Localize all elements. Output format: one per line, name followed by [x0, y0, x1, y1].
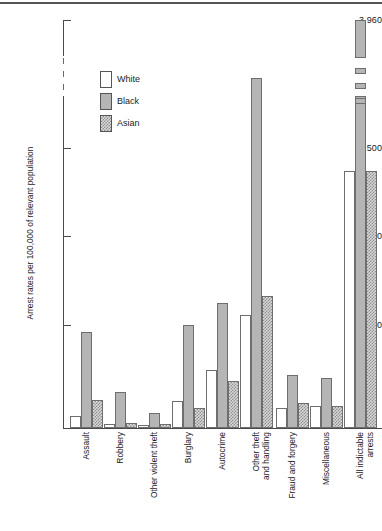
- bar-break-segment: [355, 98, 366, 104]
- plot-area: [64, 20, 382, 429]
- bar-white: [240, 315, 251, 428]
- bar-black: [251, 78, 262, 428]
- x-axis-label: Other theftand handling: [252, 432, 271, 480]
- bar-asian: [126, 423, 137, 428]
- x-axis-label-line: Other violent theft: [150, 432, 160, 498]
- bar-white: [138, 425, 149, 428]
- bar-asian: [228, 381, 239, 428]
- x-axis-baseline: [64, 428, 382, 429]
- bar-black: [217, 303, 228, 428]
- bar-break-segment: [355, 83, 366, 89]
- bar-black: [81, 332, 92, 428]
- x-axis-label: Robbery: [116, 432, 126, 464]
- x-axis-label: Fraud and forgery: [288, 432, 298, 499]
- bar-asian: [262, 296, 273, 428]
- x-axis-label: Miscellaneous: [322, 432, 332, 485]
- bar-top-segment: [355, 20, 366, 58]
- bar-white: [206, 370, 217, 428]
- bar-asian: [92, 400, 103, 428]
- bar-asian: [298, 403, 309, 428]
- x-axis-label-line: Autocrime: [218, 432, 228, 470]
- bar-black: [287, 375, 298, 428]
- bar-white: [310, 406, 321, 428]
- bar-asian: [160, 424, 171, 428]
- bar-black: [115, 392, 126, 428]
- x-axis-label: Assault: [82, 432, 92, 459]
- bar-group: [206, 20, 239, 428]
- x-axis-label-line: Miscellaneous: [322, 432, 332, 485]
- x-axis-label: All indictablearrests: [356, 432, 375, 479]
- bar-group: [276, 20, 309, 428]
- x-axis-label-line: Robbery: [116, 432, 126, 464]
- bar-black: [149, 413, 160, 428]
- bar-white: [276, 408, 287, 428]
- bar-white: [104, 424, 115, 428]
- bar-white: [172, 401, 183, 428]
- bar-asian: [332, 406, 343, 428]
- x-axis-label-line: arrests: [366, 432, 376, 479]
- bar-group: [104, 20, 137, 428]
- x-axis-label-line: and handling: [262, 432, 272, 480]
- bar-white: [344, 171, 355, 429]
- x-axis-labels: AssaultRobberyOther violent theftBurglar…: [64, 432, 382, 531]
- bar-group: [240, 20, 273, 428]
- y-axis-title: Arrest rates per 100,000 of relevant pop…: [25, 123, 35, 343]
- bar-black: [321, 378, 332, 428]
- bar-group: [310, 20, 343, 428]
- x-axis-label: Autocrime: [218, 432, 228, 470]
- x-axis-label-line: Assault: [82, 432, 92, 459]
- bar-asian: [194, 408, 205, 428]
- bar-asian: [366, 171, 377, 429]
- x-axis-label-line: Fraud and forgery: [288, 432, 298, 499]
- bar-group: [344, 20, 377, 428]
- x-axis-label: Other violent theft: [150, 432, 160, 498]
- bar-break-segment: [355, 68, 366, 74]
- bar-group: [138, 20, 171, 428]
- bar-group: [70, 20, 103, 428]
- x-axis-label-line: Burglary: [184, 432, 194, 463]
- bar-black: [355, 96, 366, 428]
- bar-group: [172, 20, 205, 428]
- bar-white: [70, 416, 81, 428]
- bar-black: [183, 325, 194, 428]
- top-rule: [0, 2, 382, 4]
- x-axis-label: Burglary: [184, 432, 194, 463]
- chart-figure: 3,960 1,500 1,000 500 Arrest rates per 1…: [0, 0, 382, 531]
